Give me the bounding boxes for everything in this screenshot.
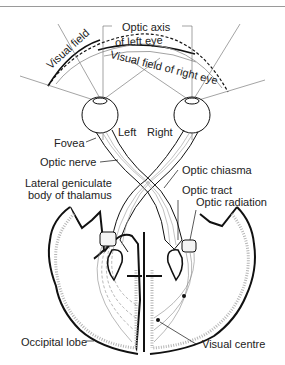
label-optic-axis: Optic axis — [122, 21, 170, 33]
label-optic-nerve: Optic nerve — [40, 156, 96, 168]
label-visual-field-left-part2: of left eye — [115, 34, 163, 48]
right-eye — [174, 97, 210, 133]
label-lgn-line2: body of thalamus — [28, 189, 112, 201]
label-optic-chiasma: Optic chiasma — [182, 164, 252, 176]
label-optic-radiation: Optic radiation — [196, 196, 267, 208]
label-visual-centre: Visual centre — [202, 338, 265, 350]
label-left: Left — [118, 126, 136, 138]
left-eye — [82, 97, 118, 133]
label-lgn-line1: Lateral geniculate — [25, 177, 112, 189]
label-fovea: Fovea — [54, 137, 85, 149]
label-occipital-lobe: Occipital lobe — [21, 336, 87, 348]
label-optic-tract: Optic tract — [182, 184, 232, 196]
label-right: Right — [147, 126, 173, 138]
optic-fibers — [102, 132, 194, 245]
midline-fissure — [127, 232, 162, 352]
